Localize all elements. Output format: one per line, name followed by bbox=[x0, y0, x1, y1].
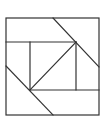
inner-diagonal-line bbox=[30, 42, 76, 90]
segments-group bbox=[6, 18, 99, 115]
geometric-figure bbox=[0, 0, 112, 126]
